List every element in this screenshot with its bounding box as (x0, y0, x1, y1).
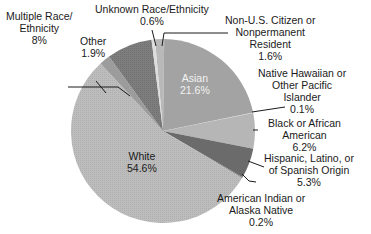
label-hawaiian-value: 0.1% (258, 103, 346, 115)
label-asian-value: 21.6% (180, 84, 210, 96)
label-hawaiian: Native Hawaiian or Other Pacific Islande… (258, 67, 346, 115)
label-white-value: 54.6% (127, 162, 157, 174)
label-white: White 54.6% (127, 150, 157, 174)
label-black-line2: American (268, 129, 341, 141)
label-amind: American Indian or Alaska Native 0.2% (217, 192, 305, 228)
label-black: Black or African American 6.2% (268, 117, 341, 153)
label-hispanic-value: 5.3% (264, 176, 354, 188)
label-other-value: 1.9% (80, 47, 106, 59)
label-hispanic-line2: of Spanish Origin (264, 164, 354, 176)
label-unknown-value: 0.6% (95, 15, 209, 27)
label-amind-line1: American Indian or (217, 192, 305, 204)
label-asian-line1: Asian (180, 72, 210, 84)
label-other: Other 1.9% (80, 35, 106, 59)
label-nonus-line1: Non-U.S. Citizen or (225, 14, 315, 26)
label-nonus-value: 1.6% (225, 50, 315, 62)
label-unknown: Unknown Race/Ethnicity 0.6% (95, 3, 209, 27)
label-other-line1: Other (80, 35, 106, 47)
label-nonus: Non-U.S. Citizen or Nonpermanent Residen… (225, 14, 315, 62)
label-hawaiian-line1: Native Hawaiian or (258, 67, 346, 79)
leader-amind (242, 174, 256, 182)
label-hawaiian-line3: Islander (258, 91, 346, 103)
label-multiple-line2: Ethnicity (6, 22, 73, 34)
label-multiple-line1: Multiple Race/ (6, 10, 73, 22)
label-hispanic-line1: Hispanic, Latino, or (264, 152, 354, 164)
label-multiple: Multiple Race/ Ethnicity 8% (6, 10, 73, 46)
label-unknown-line1: Unknown Race/Ethnicity (95, 3, 209, 15)
label-amind-line2: Alaska Native (217, 204, 305, 216)
label-nonus-line3: Resident (225, 38, 315, 50)
label-white-line1: White (127, 150, 157, 162)
label-hispanic: Hispanic, Latino, or of Spanish Origin 5… (264, 152, 354, 188)
label-asian: Asian 21.6% (180, 72, 210, 96)
label-multiple-value: 8% (6, 34, 73, 46)
label-black-line1: Black or African (268, 117, 341, 129)
label-hawaiian-line2: Other Pacific (258, 79, 346, 91)
label-nonus-line2: Nonpermanent (225, 26, 315, 38)
label-amind-value: 0.2% (217, 216, 305, 228)
leader-hispanic (248, 161, 264, 167)
